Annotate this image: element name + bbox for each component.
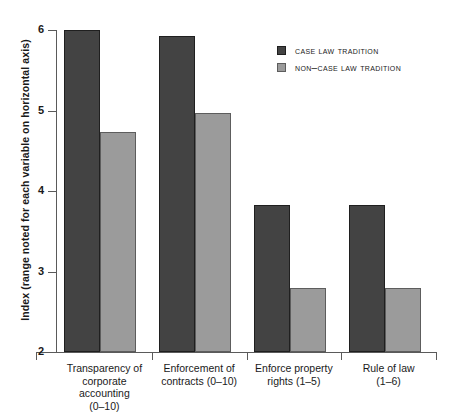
x-axis-category-label-line: rights (1–5) [247, 375, 342, 388]
legend-item: Case law tradition [277, 42, 401, 59]
x-axis-category-label: Enforcement ofcontracts (0–10) [152, 362, 247, 387]
x-axis-category-label: Enforce propertyrights (1–5) [247, 362, 342, 387]
bar [195, 113, 231, 352]
bar [100, 132, 136, 352]
y-axis-tick [48, 191, 57, 192]
x-axis-category-label-line: Enforcement of [152, 362, 247, 375]
y-axis-title: Index (range noted for each variable on … [19, 7, 31, 353]
legend-item-label: Non–case law tradition [295, 62, 401, 73]
y-axis-tick-label: 5 [26, 104, 44, 116]
y-axis-tick [48, 352, 57, 353]
legend-item-label: Case law tradition [295, 45, 379, 56]
x-axis-end-tick [36, 352, 37, 360]
x-axis-end-tick [436, 352, 437, 360]
legend-item: Non–case law tradition [277, 59, 401, 76]
x-axis-category-label-line: accounting [57, 387, 152, 400]
bar [159, 36, 195, 352]
x-axis-category-label-line: corporate [57, 375, 152, 388]
x-axis-category-label: Rule of law(1–6) [341, 362, 436, 387]
x-axis-category-label-line: Transparency of [57, 362, 152, 375]
x-axis-category-label-line: Rule of law [341, 362, 436, 375]
y-axis-tick-label: 2 [26, 345, 44, 357]
y-axis-tick-label: 3 [26, 265, 44, 277]
y-axis-tick-label: 4 [26, 184, 44, 196]
x-axis-line [36, 352, 436, 353]
x-axis-tick [247, 352, 248, 360]
legend-swatch-icon [277, 63, 286, 72]
legend: Case law traditionNon–case law tradition [277, 42, 401, 76]
x-axis-category-label-line: Enforce property [247, 362, 342, 375]
bar [254, 205, 290, 352]
bar [290, 288, 326, 352]
bar [64, 30, 100, 352]
bar [349, 205, 385, 352]
x-axis-category-label-line: (1–6) [341, 375, 436, 388]
x-axis-category-label-line: contracts (0–10) [152, 375, 247, 388]
x-axis-tick [341, 352, 342, 360]
y-axis-tick [48, 111, 57, 112]
x-axis-category-label: Transparency ofcorporateaccounting(0–10) [57, 362, 152, 412]
bar [385, 288, 421, 352]
y-axis-tick [48, 272, 57, 273]
x-axis-category-label-line: (0–10) [57, 400, 152, 412]
y-axis-tick [48, 30, 57, 31]
y-axis-tick-label: 6 [26, 23, 44, 35]
x-axis-tick [152, 352, 153, 360]
legend-swatch-icon [277, 46, 286, 55]
